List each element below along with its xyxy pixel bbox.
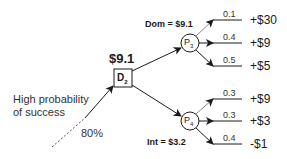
p4-branch3-prob: 0.4 xyxy=(223,134,236,143)
edge-d2-p4 xyxy=(132,85,181,116)
p3-label: P3 xyxy=(184,38,193,49)
p3-branch2-prob: 0.4 xyxy=(223,33,236,42)
p3-branch2-payoff: +$9 xyxy=(250,37,270,49)
entry-text-line1: High probability xyxy=(13,94,89,105)
p4-branch1-prob: 0.3 xyxy=(223,89,236,98)
p3-branch1-prob: 0.1 xyxy=(223,10,236,19)
p4-label: P4 xyxy=(184,116,193,127)
decision-tree-lines xyxy=(0,0,287,159)
p3-annotation: Dom = $9.1 xyxy=(145,20,193,29)
p4-branch3-payoff: -$1 xyxy=(250,138,267,150)
p3-branch1-payoff: +$30 xyxy=(250,14,277,26)
decision-value: $9.1 xyxy=(109,52,134,65)
p3-branch3-prob: 0.5 xyxy=(223,56,236,65)
entry-text-line2: of success xyxy=(13,107,65,118)
p4-annotation: Int = $3.2 xyxy=(147,138,186,147)
decision-node-label: D2 xyxy=(117,73,128,85)
p4-branch2-payoff: +$3 xyxy=(250,115,270,127)
entry-arrow xyxy=(85,86,113,118)
p4-branch2-prob: 0.3 xyxy=(223,111,236,120)
p4-branch1-payoff: +$9 xyxy=(250,93,270,105)
entry-probability: 80% xyxy=(81,128,103,139)
p3-branch3-payoff: +$5 xyxy=(250,60,270,72)
edge-d2-p3 xyxy=(132,48,181,71)
